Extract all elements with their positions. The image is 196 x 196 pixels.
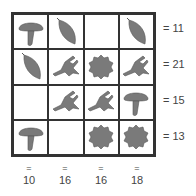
col-sum-2: =16 xyxy=(47,162,83,186)
cell-r2-c2 xyxy=(48,49,83,84)
col-sum-value-1: 10 xyxy=(23,174,35,186)
row-sum-2: = 21 xyxy=(163,58,185,70)
mushroom-icon xyxy=(16,122,46,152)
cell-r1-c4 xyxy=(119,14,154,49)
mushroom-icon xyxy=(121,87,151,117)
col-sum-value-4: 18 xyxy=(131,174,143,186)
bird-icon xyxy=(51,87,81,117)
col-eq-3: = xyxy=(83,162,119,174)
cell-r2-c1 xyxy=(13,49,48,84)
bird-icon xyxy=(51,52,81,82)
leaf-icon xyxy=(121,17,151,47)
bird-icon xyxy=(86,87,116,117)
col-sum-value-3: 16 xyxy=(95,174,107,186)
col-eq-1: = xyxy=(11,162,47,174)
cell-r4-c4 xyxy=(119,120,154,155)
cell-r1-c2 xyxy=(48,14,83,49)
col-sum-3: =16 xyxy=(83,162,119,186)
col-sum-1: =10 xyxy=(11,162,47,186)
cell-r4-c2 xyxy=(48,120,83,155)
row-sum-4: = 13 xyxy=(163,130,185,142)
flower-icon xyxy=(121,122,151,152)
col-eq-4: = xyxy=(119,162,155,174)
col-eq-2: = xyxy=(47,162,83,174)
flower-icon xyxy=(86,122,116,152)
row-sum-3: = 15 xyxy=(163,94,185,106)
col-sum-4: =18 xyxy=(119,162,155,186)
cell-r4-c3 xyxy=(84,120,119,155)
cell-r4-c1 xyxy=(13,120,48,155)
cell-r2-c3 xyxy=(84,49,119,84)
cell-r3-c2 xyxy=(48,85,83,120)
col-sum-value-2: 16 xyxy=(59,174,71,186)
flower-icon xyxy=(86,52,116,82)
cell-r3-c3 xyxy=(84,85,119,120)
leaf-icon xyxy=(51,17,81,47)
cell-r2-c4 xyxy=(119,49,154,84)
leaf-icon xyxy=(16,52,46,82)
row-sum-1: = 11 xyxy=(163,22,184,34)
bird-icon xyxy=(121,52,151,82)
cell-r3-c1 xyxy=(13,85,48,120)
mushroom-icon xyxy=(16,17,46,47)
cell-r1-c1 xyxy=(13,14,48,49)
cell-r3-c4 xyxy=(119,85,154,120)
cell-r1-c3 xyxy=(84,14,119,49)
puzzle-grid xyxy=(11,12,156,157)
